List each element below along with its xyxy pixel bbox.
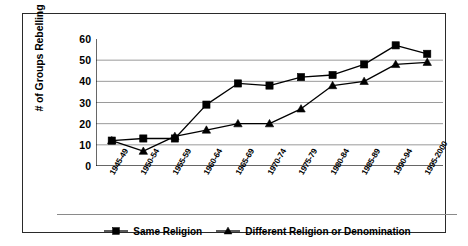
marker-square (113, 228, 120, 235)
x-axis-tick-labels: 1945-491950-541955-591960-641965-691970-… (96, 166, 443, 216)
plot-area (96, 39, 443, 166)
y-tick-label: 50 (69, 55, 91, 66)
series-1 (108, 42, 431, 144)
chart-frame: # of Groups Rebelling 6050403020100 1945… (22, 13, 446, 233)
series-2 (108, 58, 432, 154)
data-series-layer (108, 42, 432, 155)
y-axis-title: # of Groups Rebelling (33, 0, 45, 138)
legend-key-triangle-icon (215, 225, 241, 237)
marker-square (234, 80, 241, 87)
y-tick-label: 30 (69, 98, 91, 109)
marker-triangle (423, 58, 431, 65)
marker-square (424, 50, 431, 57)
y-tick-label: 60 (69, 34, 91, 45)
legend-entry: Different Religion or Denomination (215, 225, 411, 237)
marker-square (361, 61, 368, 68)
marker-square (297, 74, 304, 81)
marker-triangle (297, 105, 305, 112)
legend-key-square-icon (103, 225, 129, 237)
line-chart-svg (96, 39, 443, 166)
marker-triangle (360, 77, 368, 84)
y-tick-label: 40 (69, 76, 91, 87)
chart-figure: # of Groups Rebelling 6050403020100 1945… (0, 0, 468, 246)
y-axis-tick-labels: 6050403020100 (66, 39, 91, 166)
legend-entry: Same Religion (103, 225, 202, 237)
marker-square (329, 71, 336, 78)
y-tick-label: 10 (69, 140, 91, 151)
marker-square (140, 135, 147, 142)
marker-square (203, 101, 210, 108)
chart-legend: Same ReligionDifferent Religion or Denom… (45, 219, 468, 237)
legend-label: Different Religion or Denomination (245, 226, 411, 237)
legend-divider (57, 214, 457, 215)
y-tick-label: 0 (69, 161, 91, 172)
marker-square (392, 42, 399, 49)
y-tick-label: 20 (69, 119, 91, 130)
gridlines (96, 60, 443, 166)
legend-label: Same Religion (133, 226, 202, 237)
marker-square (266, 82, 273, 89)
